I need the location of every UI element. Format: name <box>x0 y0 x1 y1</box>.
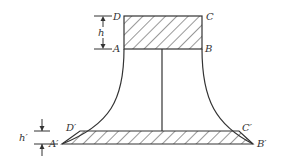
label-B-prime: B′ <box>256 138 267 149</box>
label-h-prime: h′ <box>19 132 28 143</box>
bottom-band <box>62 131 253 144</box>
label-C-prime: C′ <box>242 122 253 133</box>
label-A-prime: A′ <box>48 138 59 149</box>
top-rectangle <box>124 16 202 49</box>
label-B: B <box>204 43 212 54</box>
label-D: D <box>112 11 121 22</box>
label-D-prime: D′ <box>65 122 77 133</box>
label-C: C <box>206 11 214 22</box>
label-h: h <box>98 27 104 38</box>
diagram-canvas: D C A B h D′ C′ A′ B′ h′ <box>0 0 282 164</box>
label-A: A <box>112 43 120 54</box>
